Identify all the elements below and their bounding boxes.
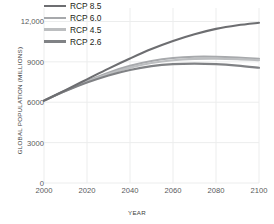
population-projection-chart: 030006000900012,000 20002020204020602080… (0, 0, 274, 224)
x-axis-tick-label: 2080 (196, 186, 236, 195)
legend-item[interactable]: RCP 4.5 (44, 25, 102, 35)
x-axis-ticks: 200020202040206020802100 (0, 0, 274, 224)
x-axis-tick-label: 2000 (24, 186, 64, 195)
x-axis-tick-label: 2060 (153, 186, 193, 195)
legend-item[interactable]: RCP 6.0 (44, 13, 102, 23)
legend-item[interactable]: RCP 2.6 (44, 36, 102, 46)
x-axis-title: YEAR (0, 209, 274, 216)
x-axis-tick-label: 2100 (239, 186, 274, 195)
x-axis-tick-label: 2020 (67, 186, 107, 195)
legend-item-label: RCP 4.5 (70, 25, 102, 35)
legend-color-swatch (44, 40, 66, 43)
legend-item-label: RCP 8.5 (70, 1, 102, 11)
legend-color-swatch (44, 28, 66, 31)
legend-item-label: RCP 2.6 (70, 37, 102, 47)
legend-item[interactable]: RCP 8.5 (44, 1, 102, 11)
legend-color-swatch (44, 17, 66, 20)
legend-item-label: RCP 6.0 (70, 13, 102, 23)
chart-legend: RCP 8.5RCP 6.0RCP 4.5RCP 2.6 (44, 1, 102, 47)
y-axis-title: GLOBAL POPULATION (MILLIONS) (16, 31, 23, 171)
x-axis-tick-label: 2040 (110, 186, 150, 195)
legend-color-swatch (44, 5, 66, 8)
